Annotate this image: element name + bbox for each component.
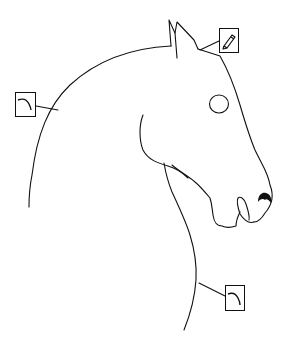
leader-line-curve-left	[36, 106, 58, 110]
chin-outline	[172, 165, 240, 228]
curve-tool-callout-bottom[interactable]	[225, 285, 245, 311]
eye-outline	[210, 95, 229, 113]
curve-icon	[16, 93, 34, 115]
leader-line-curve-bottom	[199, 283, 225, 296]
jaw-outline	[140, 115, 188, 178]
curve-tool-callout-left[interactable]	[15, 92, 36, 117]
neck-front-outline	[164, 163, 196, 330]
neck-back-outline	[29, 46, 171, 207]
leader-line-pencil	[200, 41, 219, 50]
pencil-icon	[220, 29, 237, 51]
mouth-outline	[237, 197, 254, 222]
curve-icon	[226, 286, 243, 309]
ear-right-outline	[175, 22, 198, 49]
nostril	[258, 193, 271, 203]
pencil-tool-callout[interactable]	[219, 28, 239, 53]
